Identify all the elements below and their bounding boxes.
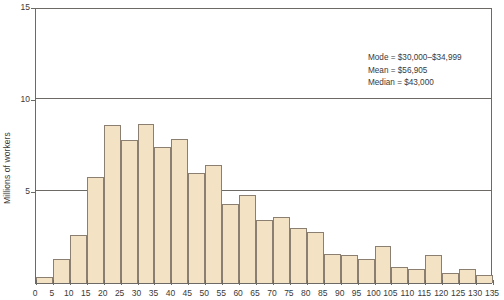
- histogram-bar: [290, 228, 307, 283]
- x-tick-mark-10: [70, 280, 71, 285]
- x-tick-mark-100: [375, 280, 376, 285]
- histogram-bar: [307, 232, 324, 283]
- x-tick-mark-85: [324, 280, 325, 285]
- histogram-bar: [341, 255, 358, 283]
- histogram-bar: [375, 246, 392, 283]
- x-tick-label-25: 25: [115, 288, 124, 298]
- histogram-bar: [476, 275, 493, 283]
- x-tick-label-100: 100: [366, 288, 380, 298]
- histogram-bar: [239, 195, 256, 283]
- y-axis-title-text: Millions of workers: [0, 30, 14, 300]
- histogram-bar: [391, 267, 408, 283]
- histogram-bar: [138, 124, 155, 283]
- x-tick-label-65: 65: [250, 288, 259, 298]
- x-tick-mark-115: [425, 280, 426, 285]
- x-tick-label-115: 115: [418, 288, 432, 298]
- plot-area: [35, 8, 492, 284]
- histogram-bar: [442, 273, 459, 283]
- x-tick-mark-90: [341, 280, 342, 285]
- histogram-bar: [273, 217, 290, 283]
- x-tick-label-45: 45: [183, 288, 192, 298]
- x-tick-label-60: 60: [233, 288, 242, 298]
- histogram-bar: [222, 204, 239, 283]
- x-tick-mark-95: [358, 280, 359, 285]
- x-tick-label-30: 30: [132, 288, 141, 298]
- x-tick-mark-45: [188, 280, 189, 285]
- x-tick-label-135: 135: [485, 288, 499, 298]
- statistics-annotation: Mode = $30,000–$34,999 Mean = $56,905 Me…: [368, 52, 462, 90]
- x-tick-label-80: 80: [301, 288, 310, 298]
- histogram-chart: Millions of workers 51015 05101520253035…: [0, 0, 504, 300]
- x-tick-mark-65: [256, 280, 257, 285]
- x-tick-label-15: 15: [81, 288, 90, 298]
- x-tick-mark-0: [36, 280, 37, 285]
- histogram-bar: [53, 259, 70, 283]
- histogram-bar: [104, 125, 121, 283]
- x-tick-mark-35: [154, 280, 155, 285]
- x-tick-label-5: 5: [50, 288, 55, 298]
- histogram-bar: [205, 165, 222, 283]
- histogram-bar: [121, 140, 138, 283]
- x-tick-mark-120: [442, 280, 443, 285]
- annotation-mean: Mean = $56,905: [368, 65, 462, 78]
- histogram-bar: [358, 259, 375, 283]
- x-tick-label-85: 85: [318, 288, 327, 298]
- gridline-10: [36, 98, 491, 99]
- x-tick-mark-130: [476, 280, 477, 285]
- y-axis-title: Millions of workers: [0, 0, 14, 14]
- x-tick-label-95: 95: [352, 288, 361, 298]
- histogram-bar: [154, 147, 171, 283]
- x-tick-mark-25: [121, 280, 122, 285]
- x-tick-mark-55: [222, 280, 223, 285]
- histogram-bar: [256, 220, 273, 283]
- x-tick-label-105: 105: [383, 288, 397, 298]
- x-tick-label-0: 0: [33, 288, 38, 298]
- x-tick-mark-30: [138, 280, 139, 285]
- x-tick-mark-80: [307, 280, 308, 285]
- x-tick-label-55: 55: [216, 288, 225, 298]
- x-tick-label-50: 50: [200, 288, 209, 298]
- annotation-median: Median = $43,000: [368, 77, 462, 90]
- x-tick-mark-70: [273, 280, 274, 285]
- histogram-bar: [425, 255, 442, 283]
- x-tick-label-10: 10: [64, 288, 73, 298]
- histogram-bar: [70, 235, 87, 283]
- x-tick-mark-50: [205, 280, 206, 285]
- histogram-bar: [36, 277, 53, 283]
- histogram-bar: [171, 139, 188, 283]
- x-tick-label-130: 130: [468, 288, 482, 298]
- x-tick-mark-135: [493, 280, 494, 285]
- x-tick-mark-20: [104, 280, 105, 285]
- histogram-bar: [459, 269, 476, 283]
- histogram-bar: [408, 269, 425, 283]
- x-tick-label-20: 20: [98, 288, 107, 298]
- x-tick-label-125: 125: [451, 288, 465, 298]
- x-tick-mark-75: [290, 280, 291, 285]
- x-tick-mark-125: [459, 280, 460, 285]
- x-tick-mark-60: [239, 280, 240, 285]
- x-tick-label-110: 110: [401, 288, 415, 298]
- histogram-bar: [324, 254, 341, 283]
- x-tick-mark-40: [171, 280, 172, 285]
- x-tick-mark-110: [408, 280, 409, 285]
- x-tick-label-35: 35: [149, 288, 158, 298]
- x-tick-label-40: 40: [166, 288, 175, 298]
- x-tick-label-90: 90: [335, 288, 344, 298]
- annotation-mode: Mode = $30,000–$34,999: [368, 52, 462, 65]
- histogram-bar: [87, 177, 104, 283]
- x-tick-mark-15: [87, 280, 88, 285]
- x-tick-label-120: 120: [434, 288, 448, 298]
- x-tick-mark-5: [53, 280, 54, 285]
- x-tick-mark-105: [391, 280, 392, 285]
- x-tick-label-70: 70: [267, 288, 276, 298]
- histogram-bar: [188, 173, 205, 283]
- x-tick-label-75: 75: [284, 288, 293, 298]
